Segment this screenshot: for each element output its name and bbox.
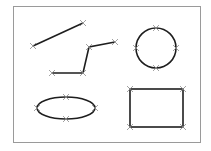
vertex-marker-x-icon[interactable] <box>30 43 36 49</box>
vertex-marker-x-icon[interactable] <box>80 20 86 26</box>
circle[interactable] <box>136 28 176 68</box>
rectangle[interactable] <box>130 89 183 127</box>
polyline[interactable] <box>52 42 115 73</box>
ellipse[interactable] <box>37 97 95 119</box>
shape-layer <box>33 23 183 127</box>
diagram-frame <box>14 7 201 143</box>
shapes-diagram <box>0 0 211 151</box>
line-segment[interactable] <box>33 23 83 46</box>
